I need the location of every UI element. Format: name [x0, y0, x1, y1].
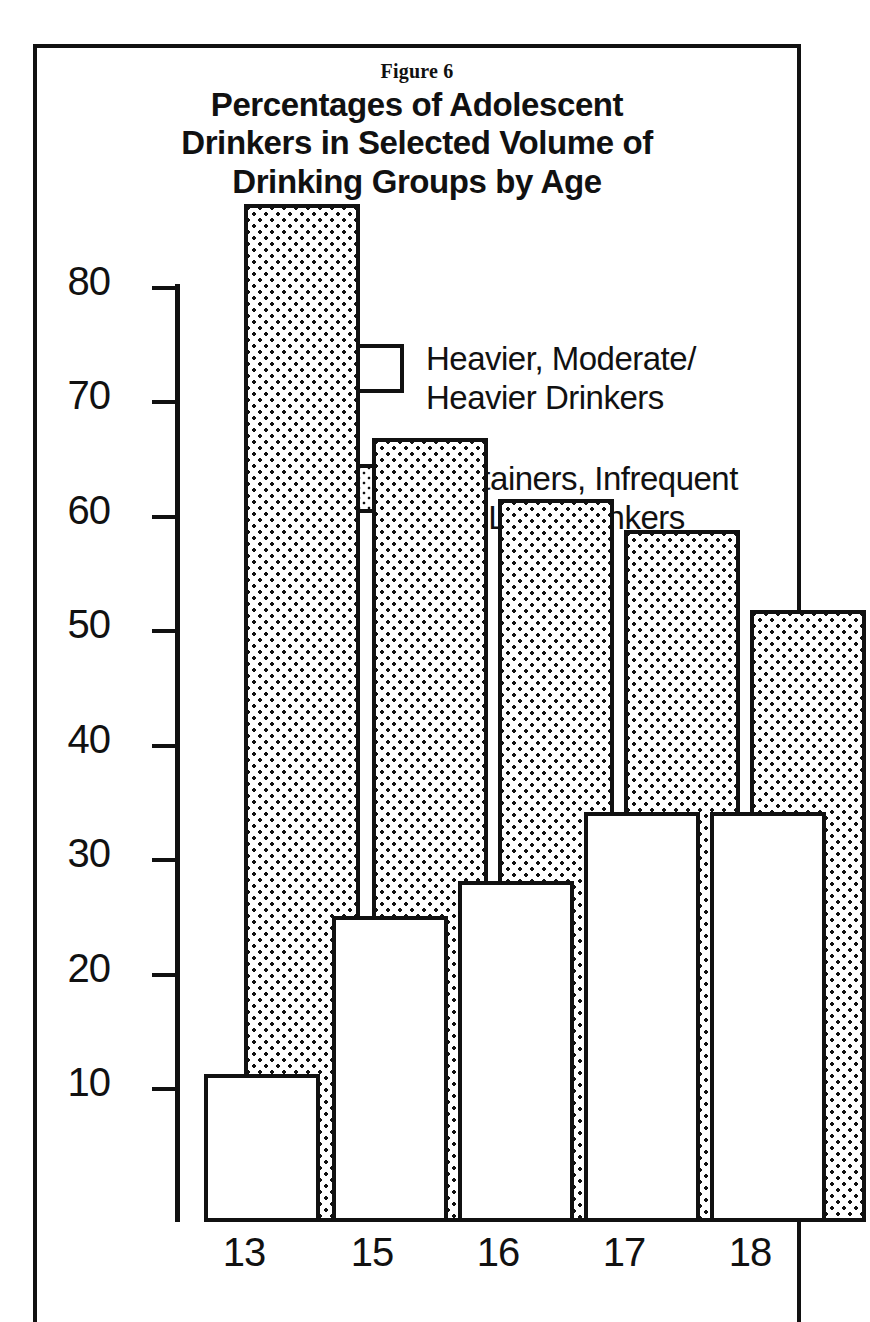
y-axis-tick-20: [152, 973, 180, 977]
legend-swatch-white-square-icon: [355, 344, 404, 393]
y-axis-tick-40: [152, 744, 180, 748]
y-axis-label-40: 40: [20, 717, 110, 762]
bar-heavier-13[interactable]: [204, 1074, 320, 1222]
y-axis-tick-60: [152, 515, 180, 519]
y-axis-tick-80: [152, 286, 180, 290]
y-axis-label-30: 30: [20, 831, 110, 876]
chart-plot-area: 80 70 60 50 40 30 20 10: [37, 48, 805, 1322]
legend-item-heavier[interactable]: Heavier, Moderate/ Heavier Drinkers: [355, 340, 785, 418]
y-axis-label-60: 60: [20, 488, 110, 533]
bar-heavier-17[interactable]: [584, 812, 700, 1222]
y-axis-tick-10: [152, 1087, 180, 1091]
x-axis-label-15: 15: [312, 1230, 432, 1275]
x-axis-label-16: 16: [438, 1230, 558, 1275]
legend-label-heavier-line-1: Heavier, Moderate/: [426, 340, 696, 379]
y-axis-label-70: 70: [20, 373, 110, 418]
y-axis-tick-70: [152, 400, 180, 404]
bar-heavier-16[interactable]: [458, 881, 574, 1222]
y-axis-tick-30: [152, 858, 180, 862]
y-axis-label-50: 50: [20, 602, 110, 647]
bar-heavier-15[interactable]: [332, 916, 448, 1222]
x-axis-label-17: 17: [564, 1230, 684, 1275]
y-axis-label-10: 10: [20, 1060, 110, 1105]
y-axis-tick-50: [152, 629, 180, 633]
x-axis-label-18: 18: [690, 1230, 810, 1275]
x-axis-label-13: 13: [184, 1230, 304, 1275]
bar-heavier-18[interactable]: [710, 812, 826, 1222]
legend-label-heavier: Heavier, Moderate/ Heavier Drinkers: [426, 340, 696, 418]
legend-label-heavier-line-2: Heavier Drinkers: [426, 379, 696, 418]
figure-frame: Figure 6 Percentages of Adolescent Drink…: [33, 44, 801, 1322]
y-axis-label-20: 20: [20, 946, 110, 991]
y-axis-label-80: 80: [20, 259, 110, 304]
